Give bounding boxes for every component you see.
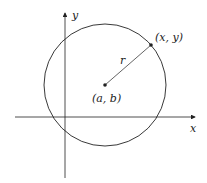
radius-line	[105, 45, 151, 85]
circle-diagram: y x (x, y) (a, b) r	[0, 0, 207, 183]
diagram-svg: y x (x, y) (a, b) r	[0, 0, 207, 183]
radius-label: r	[120, 54, 126, 67]
center-label: (a, b)	[92, 92, 121, 105]
center-point	[103, 83, 107, 87]
y-axis-label: y	[71, 9, 79, 22]
point-label: (x, y)	[155, 31, 183, 44]
x-axis-label: x	[190, 122, 197, 135]
circle-point	[149, 43, 153, 47]
